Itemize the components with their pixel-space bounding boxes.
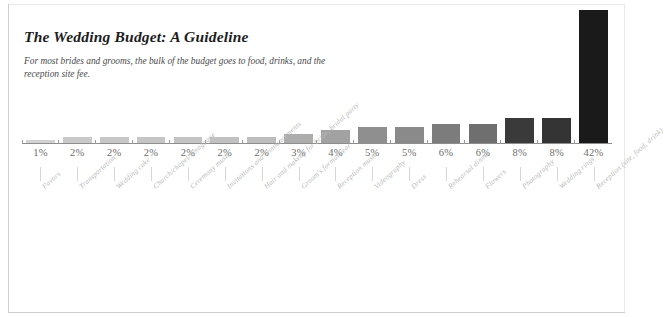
axis-tick bbox=[391, 140, 428, 144]
value-label: 5% bbox=[391, 147, 428, 161]
category-leader-line bbox=[372, 167, 373, 181]
bar-slot bbox=[575, 10, 612, 143]
bar-slot bbox=[465, 10, 502, 143]
value-label: 2% bbox=[133, 147, 170, 161]
category-leader-line bbox=[335, 167, 336, 181]
category-label: Flowers bbox=[483, 167, 508, 191]
value-label: 8% bbox=[538, 147, 575, 161]
axis-tick bbox=[22, 140, 59, 144]
category-label: Dress bbox=[409, 172, 428, 191]
axis-tick bbox=[59, 140, 96, 144]
category-label: Photography bbox=[520, 157, 556, 191]
value-label: 2% bbox=[59, 147, 96, 161]
category-leader-line bbox=[188, 167, 189, 181]
bar-slot bbox=[428, 10, 465, 143]
bar-slot bbox=[501, 10, 538, 143]
value-label: 1% bbox=[22, 147, 59, 161]
category-leader-line bbox=[77, 167, 78, 181]
bar-slot bbox=[354, 10, 391, 143]
axis-tick bbox=[354, 140, 391, 144]
bar-slot bbox=[170, 10, 207, 143]
category-leader-line bbox=[594, 167, 595, 181]
value-label: 8% bbox=[501, 147, 538, 161]
category-leader-line bbox=[446, 167, 447, 181]
category-leader-line bbox=[557, 167, 558, 181]
axis-tick bbox=[538, 140, 575, 144]
frame-top-rule bbox=[8, 4, 625, 5]
value-label: 6% bbox=[428, 147, 465, 161]
category-leader-line bbox=[409, 167, 410, 181]
bar-slot bbox=[96, 10, 133, 143]
axis-tick bbox=[501, 140, 538, 144]
category-leader-line bbox=[151, 167, 152, 181]
bar-slot bbox=[538, 10, 575, 143]
category-leader-line bbox=[299, 167, 300, 181]
category-label: Favors bbox=[40, 169, 62, 190]
category-leader-line bbox=[262, 167, 263, 181]
category-leader-line bbox=[40, 167, 41, 181]
bar-series bbox=[22, 10, 612, 143]
category-leader-line bbox=[483, 167, 484, 181]
bar-slot bbox=[59, 10, 96, 143]
bar-slot bbox=[133, 10, 170, 143]
bar-slot bbox=[22, 10, 59, 143]
axis-tick bbox=[465, 140, 502, 144]
frame-left-rule bbox=[8, 4, 9, 313]
frame-bottom-rule bbox=[8, 312, 625, 313]
bar-slot bbox=[206, 10, 243, 143]
axis-tick bbox=[133, 140, 170, 144]
category-leader-line bbox=[520, 167, 521, 181]
bar-slot bbox=[391, 10, 428, 143]
category-leader-line bbox=[225, 167, 226, 181]
axis-tick bbox=[575, 140, 612, 144]
bar-slot bbox=[243, 10, 280, 143]
category-label: Videography bbox=[372, 158, 407, 191]
axis-tick bbox=[96, 140, 133, 144]
plot-area bbox=[22, 10, 612, 143]
bar bbox=[579, 10, 608, 143]
axis-tick bbox=[428, 140, 465, 144]
category-leader-line bbox=[114, 167, 115, 181]
